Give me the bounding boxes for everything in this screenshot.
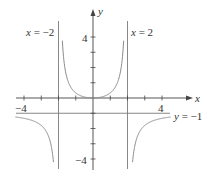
asymptote-label-x-neg2: x = −2 [25, 26, 54, 38]
asymptote-label-x-2: x = 2 [130, 26, 153, 38]
x-tick-label-neg4: −4 [15, 102, 27, 114]
y-tick-label-4: 4 [82, 32, 88, 44]
y-axis-label: y [97, 5, 103, 17]
asymptote-label-rest: = −2 [31, 26, 54, 38]
y-tick-label-neg4: −4 [75, 154, 87, 166]
function-plot: x y −4 4 4 −4 x = −2 x = 2 y = −1 [0, 0, 212, 184]
curve-right-branch [133, 117, 171, 162]
asymptote-label-rest: = −1 [179, 110, 202, 122]
labels: x y −4 4 4 −4 x = −2 x = 2 y = −1 [15, 5, 202, 166]
curve-left-branch [15, 117, 53, 162]
asymptote-label-y-neg1: y = −1 [173, 110, 202, 122]
x-tick-label-4: 4 [158, 102, 164, 114]
asymptote-label-rest: = 2 [136, 26, 153, 38]
x-axis-label: x [194, 92, 200, 104]
x-axis-arrow-icon [186, 96, 193, 101]
y-axis-arrow-icon [91, 9, 96, 16]
